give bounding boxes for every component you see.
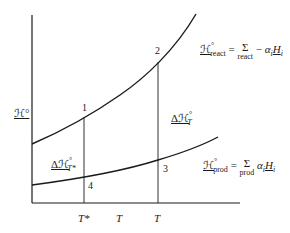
point-3-label: 3 [163, 164, 168, 174]
minus-sign: − [256, 43, 262, 55]
x-tick-t-mid: T [116, 213, 122, 224]
t-sub: T [187, 118, 191, 127]
react-sub: react [210, 49, 226, 58]
sum-react: Σreact [237, 41, 253, 61]
equals-sign: = [229, 43, 235, 55]
h-sub: i [281, 49, 283, 58]
y-axis-symbol: ℋ° [14, 107, 29, 119]
y-axis-label: ℋ° [14, 108, 29, 119]
delta-h-t-label: Δℋ°T [171, 111, 192, 127]
products-equation: ℋ°prod = Σprod αiHi [203, 157, 275, 177]
h-term: H [265, 159, 273, 171]
x-tick-t-star: T* [78, 213, 90, 224]
prod-sub: prod [213, 165, 228, 174]
point-4-label: 4 [88, 181, 93, 191]
h-sub: i [273, 165, 275, 174]
h-term: H [273, 43, 281, 55]
sum-prod: Σprod [240, 157, 255, 177]
point-1-label: 1 [82, 103, 87, 113]
equals-sign: = [231, 159, 237, 171]
point-2-label: 2 [155, 46, 160, 56]
reactants-equation: ℋ°react = Σreact − αiHi [200, 41, 283, 61]
sum-sub: react [237, 53, 253, 61]
x-tick-t: T [154, 213, 160, 224]
diagram-canvas [0, 0, 290, 233]
sum-sub: prod [240, 169, 255, 177]
delta-h-t-star-label: Δℋ°T* [51, 157, 76, 173]
t-star-sub: T* [67, 164, 75, 173]
